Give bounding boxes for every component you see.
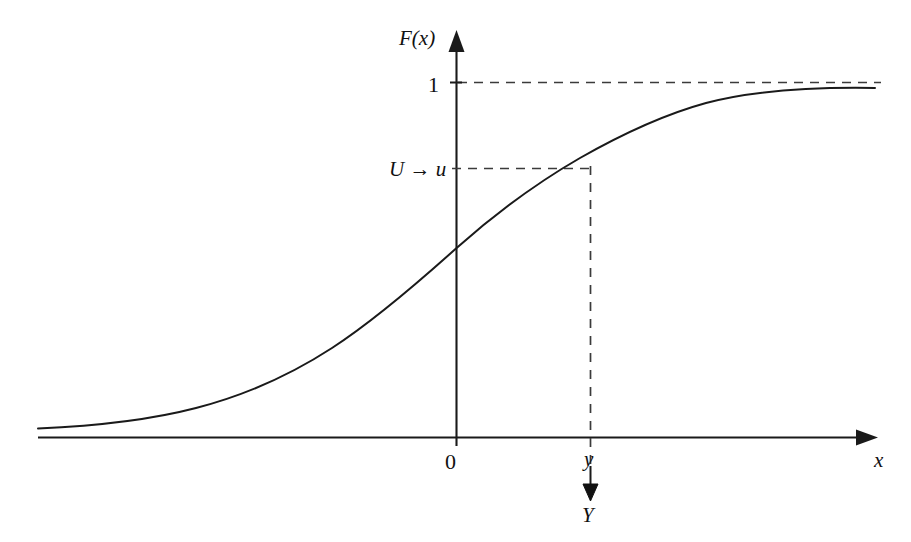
figure-container: F(x) 1 U → u 0 y Y x [0, 0, 911, 542]
y-axis-arrow-icon [449, 30, 465, 52]
x-value-label: y [582, 447, 594, 471]
random-variable-label: Y [582, 503, 596, 527]
cdf-inverse-transform-diagram: F(x) 1 U → u 0 y Y x [0, 0, 911, 542]
origin-label: 0 [445, 449, 456, 474]
axes-group [38, 30, 878, 446]
x-axis-title: x [873, 448, 884, 472]
tick-label-one: 1 [428, 72, 439, 97]
sample-arrow-group [583, 466, 598, 501]
labels-group: F(x) 1 U → u 0 y Y x [389, 26, 884, 527]
x-axis-arrow-icon [856, 430, 878, 446]
sample-down-arrow-icon [583, 484, 598, 501]
y-axis-title: F(x) [398, 26, 435, 50]
uniform-draw-label: U → u [389, 157, 446, 181]
guide-lines-group [450, 83, 881, 467]
